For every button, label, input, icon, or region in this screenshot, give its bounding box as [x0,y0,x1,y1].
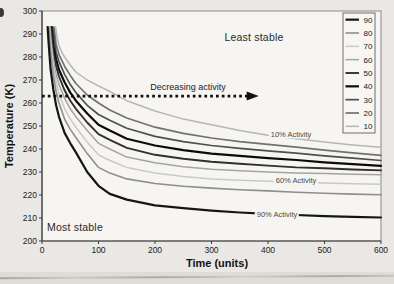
y-tick-label: 230 [23,167,37,177]
curve-label-90-percent-activity: 90% Activity [255,210,299,219]
y-tick-label: 260 [23,98,37,108]
y-tick-label: 200 [23,236,37,246]
y-tick-label: 220 [23,190,37,200]
least-stable-annotation: Least stable [224,31,283,43]
legend-label-10: 10 [364,122,373,131]
scanned-chart-figure: 2002102202302402502602702802903000100200… [0,0,394,284]
curve-label-60-percent-activity: 60% Activity [274,176,318,185]
y-tick-label: 210 [23,213,37,223]
y-tick-label: 270 [23,75,37,85]
y-tick-label: 300 [23,6,37,16]
x-tick-label: 300 [204,245,218,255]
x-tick-label: 400 [261,245,275,255]
legend-label-40: 40 [364,82,373,91]
curve-label-10-percent-activity: 10% Activity [269,129,313,138]
y-axis-title: Temperature (K) [3,84,15,168]
x-tick-label: 0 [40,245,45,255]
legend-label-70: 70 [364,42,373,51]
x-tick-label: 600 [374,245,388,255]
y-tick-label: 240 [23,144,37,154]
y-tick-label: 250 [23,121,37,131]
legend-label-30: 30 [364,96,373,105]
y-tick-label: 280 [23,52,37,62]
most-stable-annotation: Most stable [47,221,103,233]
x-tick-label: 500 [317,245,331,255]
decreasing-activity-annotation: Decreasing activity [150,82,226,92]
temperature-vs-time-chart: 2002102202302402502602702802903000100200… [0,0,394,284]
plot-area [42,11,381,241]
x-tick-label: 100 [91,245,105,255]
legend-label-80: 80 [364,29,373,38]
x-axis-title: Time (units) [186,257,248,269]
y-tick-label: 290 [23,29,37,39]
legend-label-90: 90 [364,16,373,25]
legend-label-60: 60 [364,56,373,65]
legend-label-20: 20 [364,109,373,118]
legend-label-50: 50 [364,69,373,78]
x-tick-label: 200 [148,245,162,255]
